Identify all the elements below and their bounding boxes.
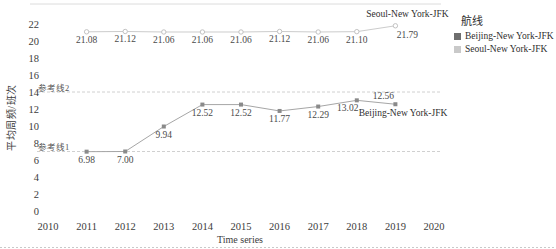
data-point-marker bbox=[162, 125, 166, 129]
data-point-label: 21.12 bbox=[269, 34, 291, 44]
data-point-marker bbox=[200, 103, 204, 107]
y-tick-label: 10 bbox=[29, 121, 40, 132]
y-axis-title: 平均周频/班次 bbox=[3, 82, 18, 154]
series-swatch-icon bbox=[454, 33, 461, 40]
legend-item-seoul-new-york-jfk: Seoul-New York-JFK bbox=[454, 43, 554, 55]
y-tick-label: 22 bbox=[29, 19, 40, 30]
x-tick-label: 2020 bbox=[424, 221, 445, 232]
legend: 航线 Beijing-New York-JFK Seoul-New York-J… bbox=[454, 12, 554, 56]
y-tick-label: 2 bbox=[34, 189, 39, 200]
data-point-label: 21.06 bbox=[192, 35, 214, 45]
data-point-label: 12.52 bbox=[230, 108, 252, 118]
y-tick-label: 14 bbox=[29, 87, 40, 98]
data-point-label: 21.08 bbox=[76, 35, 98, 45]
legend-title: 航线 bbox=[461, 12, 554, 28]
data-point-label: 6.98 bbox=[78, 155, 95, 165]
data-point-marker bbox=[162, 30, 166, 34]
x-axis-title: Time series bbox=[190, 234, 290, 245]
data-point-marker bbox=[278, 109, 282, 113]
data-point-label: 7.00 bbox=[117, 155, 134, 165]
data-point-marker bbox=[123, 29, 127, 33]
data-point-marker bbox=[316, 30, 320, 34]
y-tick-label: 16 bbox=[29, 70, 40, 81]
data-point-label: 21.06 bbox=[153, 35, 175, 45]
data-point-marker bbox=[355, 98, 359, 102]
data-point-label: 13.02 bbox=[337, 103, 359, 113]
data-point-label: 12.29 bbox=[308, 110, 330, 120]
legend-item-label: Beijing-New York-JFK bbox=[465, 30, 554, 42]
data-point-marker bbox=[123, 150, 127, 154]
x-tick-label: 2012 bbox=[115, 221, 136, 232]
x-tick-label: 2014 bbox=[192, 221, 214, 232]
data-point-marker bbox=[393, 24, 397, 28]
y-tick-label: 18 bbox=[29, 53, 40, 64]
y-tick-label: 0 bbox=[34, 206, 39, 217]
data-point-label: 21.06 bbox=[230, 35, 252, 45]
x-tick-label: 2010 bbox=[38, 221, 59, 232]
data-point-marker bbox=[239, 103, 243, 107]
x-tick-label: 2018 bbox=[346, 221, 367, 232]
legend-item-beijing-new-york-jfk: Beijing-New York-JFK bbox=[454, 30, 554, 42]
data-point-marker bbox=[316, 105, 320, 109]
data-point-label: 12.56 bbox=[373, 91, 395, 101]
x-tick-label: 2013 bbox=[153, 221, 174, 232]
data-point-label: 21.12 bbox=[115, 34, 137, 44]
data-point-marker bbox=[277, 29, 281, 33]
x-tick-label: 2017 bbox=[308, 221, 329, 232]
data-point-marker bbox=[85, 150, 89, 154]
data-point-label: 21.79 bbox=[397, 30, 419, 40]
reference-line-label: 参考线1 bbox=[38, 142, 69, 152]
reference-line-label: 参考线2 bbox=[38, 83, 69, 93]
x-tick-label: 2011 bbox=[76, 221, 97, 232]
data-point-marker bbox=[84, 30, 88, 34]
data-point-label: 21.10 bbox=[346, 35, 368, 45]
series-end-label: Beijing-New York-JFK bbox=[359, 108, 448, 118]
data-point-label: 21.06 bbox=[308, 35, 330, 45]
data-point-label: 9.94 bbox=[155, 130, 172, 140]
y-tick-label: 12 bbox=[29, 104, 40, 115]
data-point-marker bbox=[355, 29, 359, 33]
legend-item-label: Seoul-New York-JFK bbox=[465, 43, 547, 55]
data-point-label: 12.52 bbox=[192, 108, 214, 118]
y-tick-label: 4 bbox=[34, 172, 40, 183]
data-point-marker bbox=[393, 102, 397, 106]
y-tick-label: 6 bbox=[34, 155, 39, 166]
x-tick-label: 2016 bbox=[269, 221, 290, 232]
x-tick-label: 2015 bbox=[231, 221, 252, 232]
y-tick-label: 20 bbox=[29, 36, 40, 47]
chart-canvas: 参考线1参考线202468101214161820222010201120122… bbox=[0, 0, 556, 249]
data-point-marker bbox=[200, 30, 204, 34]
x-tick-label: 2019 bbox=[385, 221, 406, 232]
y-tick-label: 8 bbox=[34, 138, 39, 149]
data-point-marker bbox=[239, 30, 243, 34]
data-point-label: 11.77 bbox=[269, 114, 290, 124]
series-swatch-icon bbox=[454, 46, 461, 53]
series-end-label: Seoul-New York-JFK bbox=[366, 9, 448, 19]
